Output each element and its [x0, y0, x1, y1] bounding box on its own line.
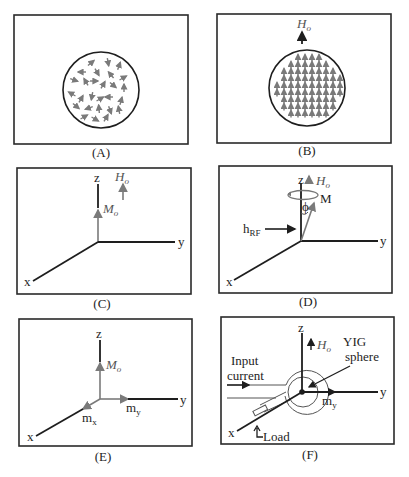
panel-e: z y x Mo mx my (E) [19, 319, 192, 464]
y-label: y [380, 384, 387, 399]
z-label: z [96, 326, 102, 341]
moment-label-d: M [320, 191, 332, 206]
random-dipole-sphere [63, 52, 139, 128]
angle-label: ϕ [302, 199, 309, 214]
dipole-arrow-icon [99, 105, 100, 113]
panel-d: z y x Ho M ϕ hRF (D) [219, 166, 392, 309]
caption-b: (B) [298, 143, 315, 158]
input-current-label-line2: current [227, 368, 264, 383]
y-label: y [180, 392, 187, 407]
x-label: x [228, 425, 235, 440]
z-label: z [298, 320, 304, 335]
x-label: x [226, 274, 233, 289]
panel-a: (A) [14, 15, 188, 160]
yig-label-line1: YIG [343, 334, 366, 349]
panel-c: z y x Ho Mo (C) [17, 168, 191, 311]
z-label: z [94, 170, 100, 185]
caption-c: (C) [93, 296, 110, 311]
y-label: y [380, 233, 387, 248]
z-label: z [298, 172, 304, 187]
yig-sphere-dot [299, 389, 305, 395]
input-current-label-line1: Input [231, 353, 259, 368]
y-label: y [178, 234, 185, 249]
panel-e-frame [19, 319, 192, 446]
x-label: x [24, 274, 31, 289]
load-label: Load [263, 429, 290, 444]
caption-e: (E) [95, 449, 112, 464]
magnetic-resonance-figure: (A) Ho (B) z y x Ho Mo (C) z y [0, 0, 409, 477]
caption-a: (A) [92, 145, 110, 160]
panel-f: z y x Ho Input current YIG sphere my Loa… [221, 317, 394, 462]
panel-b: Ho (B) [217, 14, 391, 158]
caption-d: (D) [299, 294, 317, 309]
x-label: x [27, 429, 34, 444]
caption-f: (F) [302, 447, 318, 462]
yig-label-line2: sphere [345, 349, 379, 364]
